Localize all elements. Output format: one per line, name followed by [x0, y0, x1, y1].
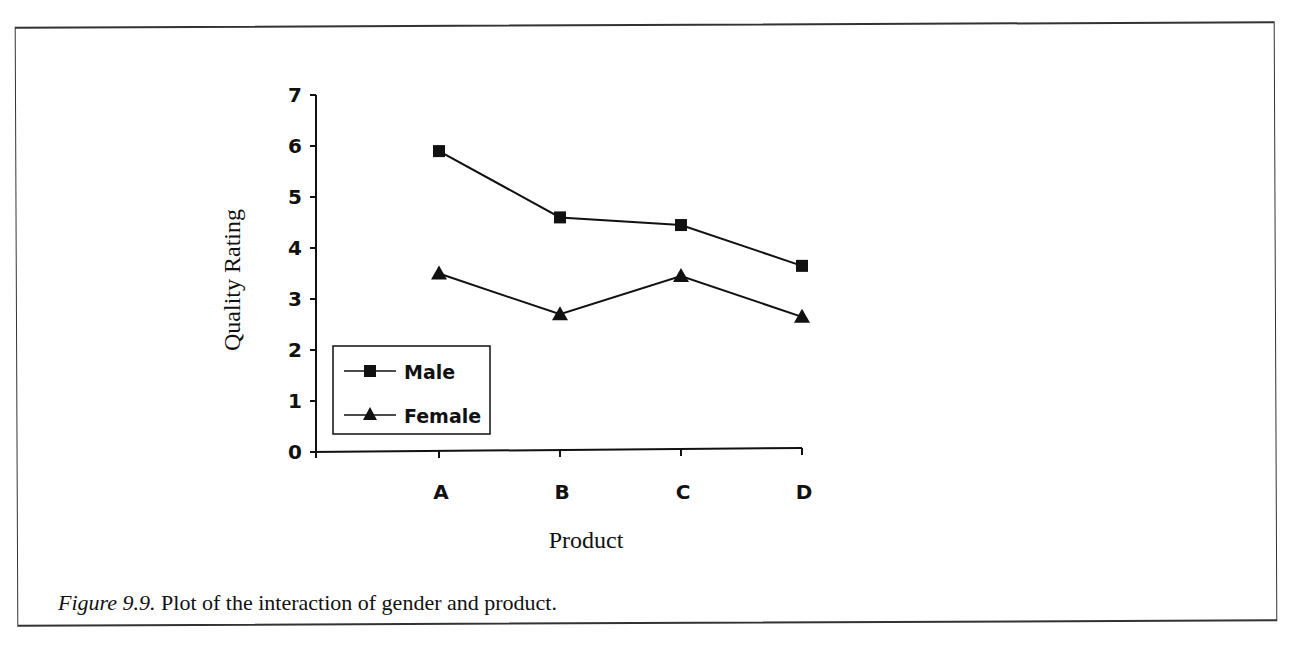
figure-caption-label: Figure 9.9.	[58, 590, 156, 615]
triangle-marker-icon	[431, 266, 447, 280]
figure-caption-text: Plot of the interaction of gender and pr…	[156, 590, 557, 615]
legend-label-male: Male	[404, 361, 455, 383]
x-tick-label: B	[554, 480, 569, 504]
x-axis-title: Product	[549, 527, 624, 553]
y-axis-title: Quality Rating	[219, 209, 245, 351]
square-marker-icon	[675, 219, 687, 231]
series-male	[433, 145, 808, 272]
x-tick-label: C	[676, 480, 691, 504]
y-tick-label: 4	[288, 236, 302, 260]
legend-label-female: Female	[404, 405, 481, 427]
y-tick-label: 5	[288, 185, 302, 209]
y-tick-label: 0	[288, 440, 302, 464]
square-marker-icon	[554, 211, 566, 223]
x-tick-label: A	[433, 480, 449, 504]
y-axis: 01234567	[288, 83, 316, 464]
line-chart: 01234567 ABCD Quality Rating Product Mal…	[0, 0, 1314, 656]
y-tick-label: 7	[288, 83, 302, 107]
y-tick-label: 6	[288, 134, 302, 158]
figure-caption: Figure 9.9. Plot of the interaction of g…	[58, 590, 557, 616]
x-tick-label: D	[796, 480, 813, 504]
y-tick-label: 3	[288, 287, 302, 311]
square-marker-icon	[796, 260, 808, 272]
x-axis: ABCD	[310, 448, 812, 504]
y-tick-label: 2	[288, 338, 302, 362]
square-marker-icon	[433, 145, 445, 157]
square-marker-icon	[364, 365, 376, 377]
triangle-marker-icon	[673, 268, 689, 282]
legend: Male Female	[333, 346, 490, 434]
series-layer	[431, 145, 810, 323]
series-female	[431, 266, 810, 323]
y-tick-label: 1	[288, 389, 302, 413]
